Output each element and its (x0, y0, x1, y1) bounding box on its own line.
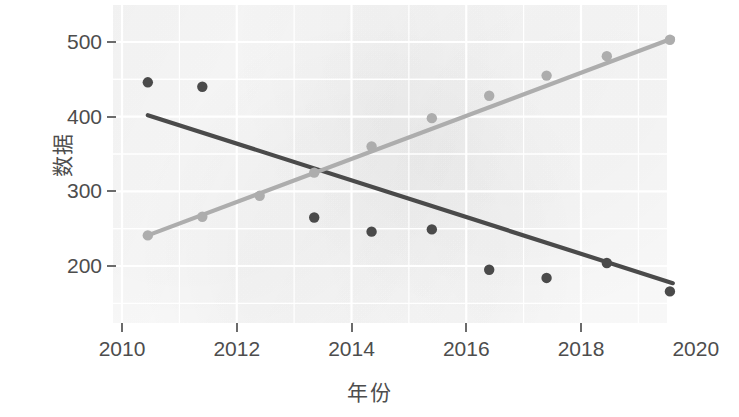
y-axis-tick-mark (107, 116, 116, 118)
x-axis-tick-mark (121, 323, 123, 332)
scatter-chart: 数据 年份 200300400500 201020122014201620182… (0, 0, 739, 417)
data-point-declining-series (309, 212, 319, 222)
y-axis-tick-mark (107, 190, 116, 192)
data-point-declining-series (541, 273, 551, 283)
x-axis-tick-mark (236, 323, 238, 332)
x-axis-tick-mark (580, 323, 582, 332)
data-point-rising-series (197, 212, 207, 222)
x-axis-tick-label: 2010 (99, 337, 146, 361)
data-point-rising-series (309, 167, 319, 177)
x-axis-tick-label: 2020 (672, 337, 719, 361)
data-point-rising-series (366, 141, 376, 151)
data-point-rising-series (255, 191, 265, 201)
gridlines (113, 5, 667, 323)
y-axis-tick-mark (107, 41, 116, 43)
trendlines (148, 38, 673, 283)
data-point-declining-series (366, 226, 376, 236)
data-point-declining-series (665, 286, 675, 296)
data-point-rising-series (541, 70, 551, 80)
x-axis-tick-label: 2014 (328, 337, 375, 361)
x-axis-tick-label: 2016 (443, 337, 490, 361)
x-axis-tick-label: 2012 (213, 337, 260, 361)
x-axis-tick-label: 2018 (558, 337, 605, 361)
data-point-rising-series (665, 35, 675, 45)
data-point-declining-series (602, 258, 612, 268)
trendline-declining-series (148, 115, 673, 283)
data-point-declining-series (427, 224, 437, 234)
data-point-rising-series (427, 113, 437, 123)
data-point-declining-series (484, 265, 494, 275)
data-point-declining-series (143, 77, 153, 87)
data-point-rising-series (484, 91, 494, 101)
trendline-rising-series (148, 38, 673, 235)
data-point-rising-series (602, 51, 612, 61)
x-axis-tick-mark (351, 323, 353, 332)
x-axis-tick-mark (465, 323, 467, 332)
data-point-rising-series (143, 230, 153, 240)
data-point-declining-series (197, 82, 207, 92)
y-axis-tick-mark (107, 265, 116, 267)
